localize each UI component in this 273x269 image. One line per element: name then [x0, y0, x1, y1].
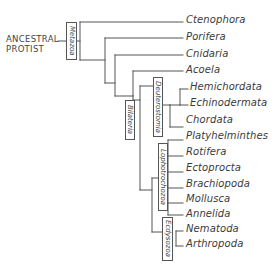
- taxon-acoela: Acoela: [186, 65, 220, 75]
- root-label-ancestral-protist: ANCESTRAL PROTIST: [6, 34, 59, 54]
- taxon-annelida: Annelida: [186, 209, 231, 219]
- root-label-line-1: ANCESTRAL: [6, 34, 59, 44]
- taxon-porifera: Porifera: [186, 32, 226, 42]
- clade-deuterostomia-label: Deuterostomia: [154, 81, 162, 133]
- clade-ecdysozoa-label: Ecdysozoa: [164, 220, 172, 257]
- taxon-ectoprocta: Ectoprocta: [186, 163, 241, 173]
- clade-ecdysozoa: Ecdysozoa: [162, 217, 173, 261]
- clade-metazoa: Metazoa: [66, 22, 77, 60]
- taxon-platyhelminthes: Platyhelminthes: [186, 131, 268, 141]
- clade-lophotrochozoa-label: Lophotrochozoa: [159, 149, 167, 205]
- taxon-hemichordata: Hemichordata: [190, 82, 262, 92]
- clade-lophotrochozoa: Lophotrochozoa: [158, 143, 168, 211]
- taxon-arthropoda: Arthropoda: [186, 239, 243, 249]
- taxon-echinodermata: Echinodermata: [190, 98, 267, 108]
- taxon-chordata: Chordata: [186, 115, 233, 125]
- clade-metazoa-label: Metazoa: [68, 26, 76, 56]
- clade-bilateria-label: Bilateria: [126, 105, 134, 134]
- taxon-nematoda: Nematoda: [186, 224, 239, 234]
- taxon-rotifera: Rotifera: [186, 147, 226, 157]
- taxon-cnidaria: Cnidaria: [186, 49, 228, 59]
- taxon-brachiopoda: Brachiopoda: [186, 179, 250, 189]
- root-label-line-2: PROTIST: [6, 44, 59, 54]
- taxon-ctenophora: Ctenophora: [186, 15, 246, 25]
- clade-bilateria: Bilateria: [125, 100, 135, 140]
- taxon-mollusca: Mollusca: [186, 194, 230, 204]
- clade-deuterostomia: Deuterostomia: [153, 77, 163, 137]
